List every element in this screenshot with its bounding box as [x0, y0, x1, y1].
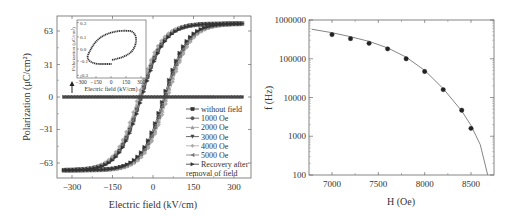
data-marker — [202, 96, 205, 99]
data-marker — [113, 96, 116, 99]
data-marker — [226, 96, 229, 99]
data-marker — [175, 96, 178, 99]
data-marker — [169, 96, 172, 99]
data-marker — [89, 96, 92, 99]
data-marker — [80, 96, 83, 99]
inset-y-tick-label: 0.0 — [80, 47, 87, 52]
y-tick-label: 1000 — [288, 131, 307, 141]
legend-marker-icon — [191, 163, 194, 166]
data-marker — [95, 96, 98, 99]
data-marker — [83, 96, 86, 99]
data-marker — [166, 96, 169, 99]
data-marker — [157, 123, 161, 127]
data-marker — [92, 96, 95, 99]
inset-x-tick-label: −300 — [75, 79, 87, 85]
x-tick-label: 8500 — [462, 179, 481, 189]
legend-label: 3000 Oe — [201, 133, 229, 142]
legend-label: 5000 Oe — [201, 151, 229, 160]
y-axis-label: f (Hz) — [263, 86, 275, 110]
legend-item: 2000 Oe — [186, 123, 229, 132]
data-marker — [135, 112, 139, 116]
x-axis-label: H (Oe) — [387, 196, 415, 208]
y-tick-label: −63 — [39, 158, 54, 168]
data-marker — [217, 96, 220, 99]
data-marker — [116, 96, 119, 99]
x-tick-label: 150 — [187, 182, 201, 192]
data-marker — [160, 100, 164, 104]
data-point — [469, 126, 473, 130]
inset-x-tick-label: 300 — [137, 79, 146, 85]
inset-y-tick-label: 0.3 — [80, 21, 87, 26]
data-marker — [184, 96, 187, 99]
data-marker — [163, 96, 166, 99]
data-marker — [140, 96, 143, 99]
legend-label: 4000 Oe — [201, 142, 229, 151]
data-marker — [157, 111, 161, 115]
data-marker — [121, 138, 125, 142]
data-marker — [214, 96, 217, 99]
inset-y-tick-label: 0.1 — [80, 35, 87, 40]
data-marker — [142, 90, 146, 94]
y-tick-label: 31 — [44, 60, 53, 70]
data-marker — [208, 96, 211, 99]
data-marker — [98, 96, 101, 99]
data-marker — [171, 80, 175, 84]
x-tick-label: 300 — [227, 182, 241, 192]
arrow-head-icon — [70, 81, 75, 86]
x-tick-label: 7500 — [369, 179, 388, 189]
inset-x-axis-label: Electric field (kV/cm) — [85, 86, 138, 93]
data-marker — [152, 51, 156, 55]
data-marker — [68, 96, 71, 99]
data-marker — [137, 96, 140, 99]
data-marker — [172, 96, 175, 99]
data-point — [348, 36, 352, 40]
legend-item: Recovery afterremoval of field — [186, 160, 249, 178]
inset-y-tick-label: -0.3 — [80, 73, 88, 78]
legend-item: 1000 Oe — [186, 114, 229, 123]
data-marker — [235, 96, 238, 99]
left-chart-svg: −300−150015030063310−31−63Electric field… — [0, 0, 260, 216]
data-marker — [117, 145, 121, 149]
data-point — [385, 47, 389, 51]
legend-label: 1000 Oe — [201, 114, 229, 123]
data-point — [367, 41, 371, 45]
x-tick-label: −300 — [63, 182, 82, 192]
legend-item: 5000 Oe — [186, 151, 229, 160]
data-marker — [178, 96, 181, 99]
data-marker — [128, 96, 131, 99]
data-marker — [211, 96, 214, 99]
data-marker — [229, 96, 232, 99]
data-points — [330, 32, 473, 130]
y-tick-label: 100000 — [279, 54, 307, 64]
data-point — [422, 69, 426, 73]
data-marker — [63, 96, 66, 99]
inset-x-tick-label: −150 — [90, 79, 102, 85]
data-marker — [71, 96, 74, 99]
plot-frame — [309, 20, 494, 175]
inset-chart: 0.30.10.0-0.1-0.3−300−1500150300Electric… — [71, 20, 146, 93]
legend-marker-icon — [191, 117, 194, 120]
legend-marker-icon — [191, 107, 194, 110]
data-marker — [164, 102, 168, 106]
legend-label: 2000 Oe — [201, 123, 229, 132]
data-marker — [167, 78, 171, 82]
data-marker — [160, 113, 164, 117]
inset-x-tick-label: 150 — [122, 79, 131, 85]
x-axis-label: Electric field (kV/cm) — [109, 199, 197, 211]
data-marker — [220, 96, 223, 99]
inset-y-tick-label: -0.1 — [80, 59, 88, 64]
data-marker — [128, 121, 132, 125]
data-marker — [110, 96, 113, 99]
y-tick-label: 0 — [49, 92, 54, 102]
data-marker — [131, 96, 134, 99]
data-point — [404, 57, 408, 61]
legend-label: Recovery after — [201, 160, 249, 169]
data-marker — [164, 89, 168, 93]
fit-curve — [312, 29, 488, 175]
x-tick-label: 8000 — [416, 179, 435, 189]
data-marker — [193, 96, 196, 99]
legend-label: without field — [201, 105, 242, 114]
y-tick-label: 10000 — [284, 93, 307, 103]
y-tick-label: 100 — [293, 170, 307, 180]
data-marker — [77, 96, 80, 99]
